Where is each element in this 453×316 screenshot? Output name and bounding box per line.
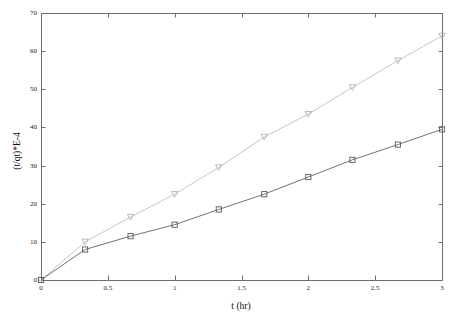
x-tick-label: 0.5 bbox=[103, 284, 112, 292]
chart-plot-svg bbox=[0, 0, 453, 316]
chart-figure: 00.511.522.53 010203040506070 t (hr) (t/… bbox=[0, 0, 453, 316]
x-tick-label: 3 bbox=[440, 284, 444, 292]
y-tick-label: 0 bbox=[24, 276, 37, 284]
y-axis-label: (t/qt)*E-4 bbox=[12, 91, 22, 211]
y-tick-label: 10 bbox=[24, 238, 37, 246]
x-tick-label: 0 bbox=[39, 284, 43, 292]
y-tick-label: 50 bbox=[24, 85, 37, 93]
series-series-lower bbox=[38, 127, 444, 283]
x-tick-label: 2.5 bbox=[371, 284, 380, 292]
plot-frame bbox=[42, 14, 443, 281]
y-tick-label: 60 bbox=[24, 47, 37, 55]
y-tick-label: 40 bbox=[24, 123, 37, 131]
data-series-group bbox=[38, 33, 445, 283]
x-tick-label: 1 bbox=[173, 284, 177, 292]
x-tick-label: 2 bbox=[307, 284, 311, 292]
x-axis-label: t (hr) bbox=[231, 301, 250, 311]
series-line bbox=[41, 36, 442, 280]
axes-group bbox=[42, 14, 443, 281]
y-tick-label: 30 bbox=[24, 162, 37, 170]
y-tick-label: 70 bbox=[24, 9, 37, 17]
y-tick-label: 20 bbox=[24, 200, 37, 208]
x-tick-label: 1.5 bbox=[237, 284, 246, 292]
